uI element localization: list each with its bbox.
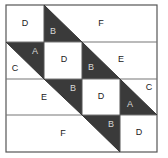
label-r4-b: B <box>108 120 114 129</box>
label-r2-a: A <box>32 47 38 56</box>
label-r1-d: D <box>22 19 29 28</box>
label-r3-a: A <box>127 100 133 109</box>
label-r2-e: E <box>118 55 124 64</box>
label-r2-c: C <box>12 64 19 73</box>
label-r3-e: E <box>41 93 47 102</box>
label-r4-f: F <box>60 129 66 138</box>
label-r1-f: F <box>98 19 104 28</box>
label-r3-c: C <box>146 83 153 92</box>
label-r4-d: D <box>136 128 143 137</box>
label-r3-d: D <box>98 92 105 101</box>
label-r2-b: B <box>88 63 94 72</box>
label-r3-b: B <box>70 84 76 93</box>
quilt-block-diagram: D B F A C D B E E B D A C F B D <box>0 0 168 158</box>
label-r1-b: B <box>50 27 56 36</box>
label-r2-d: D <box>61 55 68 64</box>
